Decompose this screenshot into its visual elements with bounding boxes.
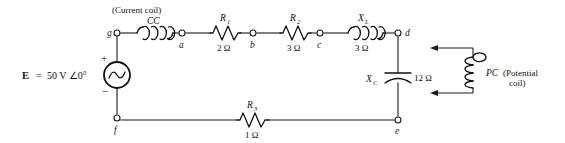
resistor-r1-subscript: 1 [227, 18, 230, 25]
inductor-xl-label: X [357, 13, 365, 23]
node-label-e: e [395, 126, 399, 136]
capacitor-xc-value: 12 Ω [414, 73, 432, 83]
resistor-r1-label: R [219, 13, 226, 23]
node-marker-g [114, 30, 120, 36]
potential-coil-caption-line1: (Potential [503, 68, 538, 78]
node-label-b: b [250, 40, 255, 50]
node-marker-c [317, 30, 323, 36]
resistor-r1-symbol [210, 26, 241, 40]
capacitor-xc-symbol [385, 73, 411, 83]
resistor-r3-subscript: 3 [253, 105, 258, 112]
node-marker-e [395, 117, 401, 123]
resistor-r2-subscript: 2 [297, 18, 301, 25]
source-plus-sign: + [101, 52, 107, 64]
circuit-diagram: (Current coil) CC R 1 2 Ω R 2 3 Ω X L 3 … [0, 0, 565, 143]
node-label-a: a [179, 40, 184, 50]
current-coil-symbol [137, 26, 175, 39]
potential-coil-caption-line2: coil) [509, 78, 526, 88]
resistor-r3-symbol [237, 113, 269, 127]
node-marker-a [179, 30, 185, 36]
circuit-canvas: (Current coil) CC R 1 2 Ω R 2 3 Ω X L 3 … [0, 0, 565, 143]
node-label-g: g [107, 28, 112, 38]
potential-coil-symbol [430, 45, 486, 96]
potential-coil-label: PC [485, 68, 499, 78]
node-marker-d [395, 30, 401, 36]
node-label-d: d [405, 28, 410, 38]
resistor-r3-value: 1 Ω [245, 130, 259, 140]
resistor-r1-value: 2 Ω [217, 43, 231, 53]
capacitor-xc-label: X [365, 74, 373, 84]
resistor-r2-value: 3 Ω [287, 43, 301, 53]
source-label-e: E [22, 70, 29, 81]
node-label-c: c [317, 40, 322, 50]
resistor-r2-label: R [289, 13, 296, 23]
current-coil-label: CC [147, 16, 160, 26]
source-value: 50 V ∠0° [47, 70, 87, 81]
resistor-r2-symbol [280, 26, 311, 40]
node-label-f: f [114, 125, 118, 135]
inductor-xl-value: 3 Ω [355, 43, 369, 53]
node-marker-b [250, 30, 256, 36]
inductor-xl-symbol [348, 27, 385, 40]
capacitor-xc-subscript: C [373, 79, 378, 86]
resistor-r3-label: R [246, 100, 253, 110]
inductor-xl-subscript: L [364, 18, 369, 25]
current-coil-caption: (Current coil) [112, 5, 161, 15]
node-marker-f [114, 115, 120, 121]
source-label-equals: = [36, 70, 42, 81]
source-minus-sign: − [102, 85, 108, 97]
